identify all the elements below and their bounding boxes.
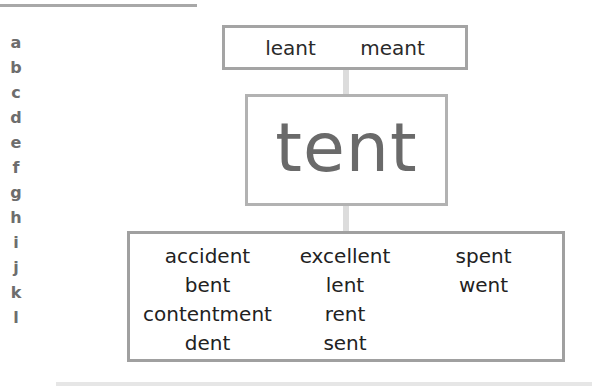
word: spent <box>456 242 512 271</box>
word: lent <box>326 271 364 300</box>
top-word: meant <box>360 36 425 60</box>
row-letter: b <box>6 55 26 80</box>
row-letter: h <box>6 205 26 230</box>
row-letter: l <box>6 305 26 330</box>
row-letter-list: a b c d e f g h i j k l <box>6 30 26 330</box>
top-word: leant <box>265 36 316 60</box>
row-letter: j <box>6 255 26 280</box>
row-letter: c <box>6 80 26 105</box>
bottom-divider <box>56 382 592 386</box>
row-letter: k <box>6 280 26 305</box>
center-word: tent <box>275 114 417 182</box>
top-word-box: leant meant <box>222 25 468 70</box>
row-letter: d <box>6 105 26 130</box>
row-letter: f <box>6 155 26 180</box>
bottom-word-box: accident bent contentment dent excellent… <box>127 231 565 362</box>
row-letter: i <box>6 230 26 255</box>
word: went <box>459 271 508 300</box>
word-column: accident bent contentment dent <box>130 242 285 359</box>
word: sent <box>323 329 366 358</box>
connector-line <box>343 70 349 94</box>
row-letter: a <box>6 30 26 55</box>
top-divider <box>0 4 197 7</box>
word: rent <box>325 300 366 329</box>
word: accident <box>165 242 250 271</box>
word: dent <box>185 329 231 358</box>
word-column: excellent lent rent sent <box>285 242 405 359</box>
word: contentment <box>143 300 272 329</box>
word: excellent <box>300 242 391 271</box>
center-word-box: tent <box>245 94 448 206</box>
connector-line <box>343 206 349 231</box>
word-column: spent went <box>405 242 562 359</box>
row-letter: g <box>6 180 26 205</box>
word: bent <box>185 271 231 300</box>
row-letter: e <box>6 130 26 155</box>
